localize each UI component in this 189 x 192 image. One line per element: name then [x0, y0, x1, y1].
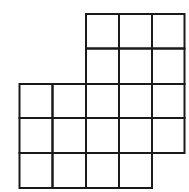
grid-cell [152, 49, 185, 85]
square-grid-figure [0, 0, 189, 192]
grid-cell [119, 84, 152, 118]
grid-cell [152, 84, 185, 118]
grid-cell [152, 14, 185, 49]
grid-cell [86, 153, 119, 188]
grid-cell [119, 49, 152, 85]
grid-cell [86, 14, 119, 49]
grid-cell [119, 153, 152, 188]
grid-cell [53, 153, 87, 188]
grid-cell [53, 118, 87, 153]
grid-cell [20, 118, 53, 153]
grid-cell [86, 49, 119, 85]
grid-cell [152, 118, 185, 153]
grid-cell [53, 84, 87, 118]
grid-cell [119, 118, 152, 153]
grid-cell [86, 84, 119, 118]
grid-cell [20, 153, 53, 188]
grid-cell [86, 118, 119, 153]
grid-cell [20, 84, 53, 118]
grid-cell [119, 14, 152, 49]
